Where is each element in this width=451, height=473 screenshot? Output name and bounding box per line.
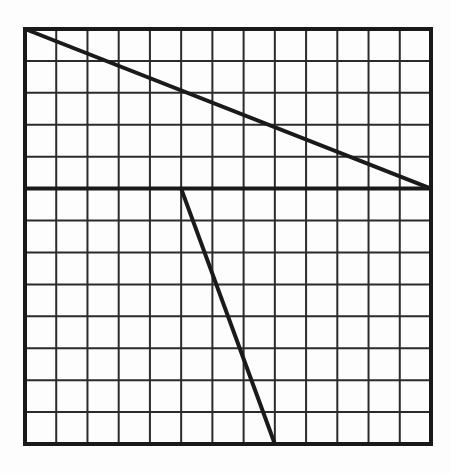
background	[0, 0, 451, 473]
grid-diagram	[0, 0, 451, 473]
